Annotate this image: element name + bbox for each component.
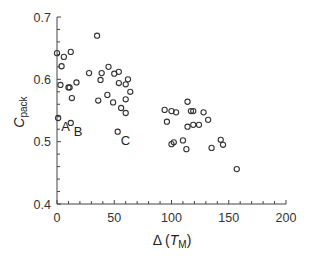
x-tick-label: 100 — [161, 211, 182, 225]
data-point — [98, 77, 103, 82]
data-point — [116, 80, 121, 85]
data-point — [99, 71, 104, 76]
data-points — [54, 33, 239, 172]
x-axis-title: Δ (TM) — [153, 232, 192, 250]
x-tick-label: 150 — [218, 211, 239, 225]
data-point — [218, 137, 223, 142]
point-label-c: C — [121, 133, 130, 148]
data-point — [119, 105, 124, 110]
data-point — [94, 33, 99, 38]
data-point — [96, 98, 101, 103]
data-point — [196, 122, 201, 127]
data-point — [123, 97, 128, 102]
y-tick-label: 0.4 — [34, 198, 51, 212]
data-point — [185, 99, 190, 104]
data-point — [58, 82, 63, 87]
data-point — [123, 110, 128, 115]
point-label-a: A — [61, 119, 70, 134]
data-point — [115, 129, 120, 134]
data-point — [191, 122, 196, 127]
y-tick-label: 0.6 — [34, 73, 51, 87]
data-point — [86, 71, 91, 76]
data-point — [106, 64, 111, 69]
data-point — [164, 119, 169, 124]
data-point — [116, 69, 121, 74]
data-point — [128, 89, 133, 94]
data-point — [123, 82, 128, 87]
data-point — [74, 80, 79, 85]
data-point — [180, 138, 185, 143]
data-point — [234, 166, 239, 171]
point-annotations: ABC — [61, 119, 130, 148]
data-point — [59, 64, 64, 69]
y-axis-title: Cpack — [11, 95, 29, 127]
x-tick-label: 50 — [107, 211, 121, 225]
data-point — [209, 145, 214, 150]
x-tick-label: 200 — [276, 211, 297, 225]
y-tick-label: 0.5 — [34, 135, 51, 149]
data-point — [111, 100, 116, 105]
data-point — [56, 115, 61, 120]
data-point — [105, 92, 110, 97]
axes: 0501001502000.40.50.60.7 — [34, 11, 297, 226]
data-point — [184, 147, 189, 152]
data-point — [206, 117, 211, 122]
point-label-b: B — [74, 124, 83, 139]
x-tick-label: 0 — [54, 211, 61, 225]
data-point — [68, 49, 73, 54]
data-point — [162, 107, 167, 112]
data-point — [185, 124, 190, 129]
data-point — [125, 77, 130, 82]
y-tick-label: 0.7 — [34, 11, 51, 25]
data-point — [61, 54, 66, 59]
data-point — [69, 95, 74, 100]
data-point — [220, 142, 225, 147]
data-point — [201, 110, 206, 115]
scatter-chart: 0501001502000.40.50.60.7 ABC Δ (TM) Cpac… — [0, 0, 309, 256]
